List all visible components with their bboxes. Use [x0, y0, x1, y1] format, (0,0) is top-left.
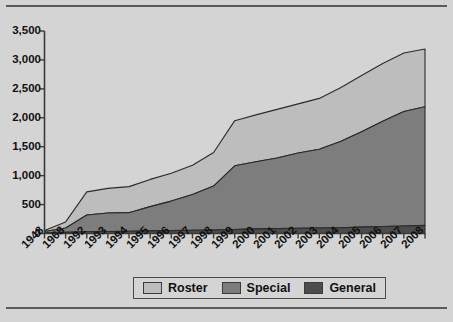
x-axis-tick-labels: 1948196819921993199419951996199719981999…: [0, 0, 453, 322]
x-tick-label: 1997: [166, 223, 193, 250]
legend-swatch-general: [304, 282, 323, 294]
x-tick-label: 2002: [272, 223, 299, 250]
x-tick-label: 2003: [293, 223, 320, 250]
x-tick-label: 1948: [19, 223, 46, 250]
legend-swatch-special: [222, 282, 241, 294]
x-tick-label: 1999: [209, 223, 236, 250]
chart-figure: 05001,0001,5002,0002,5003,0003,500 19481…: [0, 0, 453, 322]
x-tick-label: 2007: [378, 223, 405, 250]
x-tick-label: 2001: [251, 223, 278, 250]
x-tick-label: 2004: [314, 223, 341, 250]
x-tick-label: 1994: [103, 223, 130, 250]
x-tick-label: 2000: [230, 223, 257, 250]
chart-legend: RosterSpecialGeneral: [133, 277, 386, 299]
legend-entry-special: Special: [222, 281, 291, 295]
x-tick-label: 1998: [188, 223, 215, 250]
x-tick-label: 1968: [40, 223, 67, 250]
x-tick-label: 1993: [82, 223, 109, 250]
x-tick-label: 2005: [336, 223, 363, 250]
legend-label: Roster: [168, 281, 208, 295]
x-tick-label: 1992: [61, 223, 88, 250]
legend-entry-roster: Roster: [143, 281, 208, 295]
legend-label: General: [329, 281, 376, 295]
x-tick-label: 2006: [357, 223, 384, 250]
legend-swatch-roster: [143, 282, 162, 294]
legend-entry-general: General: [304, 281, 376, 295]
x-tick-label: 2008: [399, 223, 426, 250]
legend-label: Special: [247, 281, 291, 295]
x-tick-label: 1996: [145, 223, 172, 250]
x-tick-label: 1995: [124, 223, 151, 250]
